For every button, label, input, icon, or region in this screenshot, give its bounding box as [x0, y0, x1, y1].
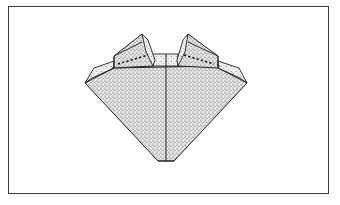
origami-figure	[0, 0, 340, 205]
left-ear-flap	[114, 34, 155, 68]
right-ear-flap	[177, 34, 218, 68]
